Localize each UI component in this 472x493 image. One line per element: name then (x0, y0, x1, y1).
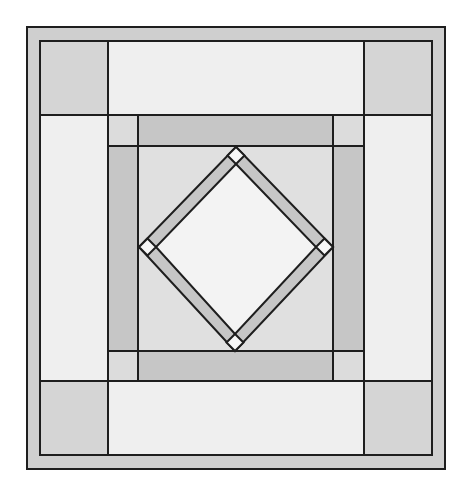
corner-square-bottom-left (40, 381, 108, 455)
frame-strip-right (333, 146, 364, 351)
corner-square-top-left (40, 41, 108, 115)
side-panel-left (40, 115, 108, 381)
side-panel-bottom (108, 381, 364, 455)
cornerstone-top-left (108, 115, 138, 146)
side-panel-top (108, 41, 364, 115)
quilt-block-diagram (0, 0, 472, 493)
cornerstone-bottom-right (333, 351, 364, 381)
corner-square-top-right (364, 41, 432, 115)
corner-square-bottom-right (364, 381, 432, 455)
cornerstone-bottom-left (108, 351, 138, 381)
frame-strip-left (108, 146, 138, 351)
frame-strip-bottom (138, 351, 333, 381)
frame-strip-top (138, 115, 333, 146)
side-panel-right (364, 115, 432, 381)
cornerstone-top-right (333, 115, 364, 146)
